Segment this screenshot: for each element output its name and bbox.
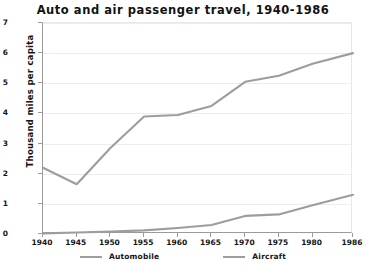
plot-area — [42, 22, 352, 233]
y-tick-label: 0 — [0, 229, 8, 238]
legend-swatch-icon — [80, 256, 102, 258]
y-tick-label: 2 — [0, 169, 8, 178]
legend-label: Automobile — [109, 252, 159, 261]
series-line-automobile — [43, 53, 353, 184]
x-tick-mark — [143, 233, 144, 237]
x-tick-mark — [76, 233, 77, 237]
x-tick-mark — [210, 233, 211, 237]
x-tick-label: 1986 — [332, 238, 366, 247]
x-tick-mark — [244, 233, 245, 237]
y-tick-label: 7 — [0, 18, 8, 27]
x-tick-mark — [312, 233, 313, 237]
chart-legend: AutomobileAircraft — [0, 252, 366, 261]
y-axis-title: Thousand miles per capita — [25, 16, 35, 186]
y-tick-label: 1 — [0, 199, 8, 208]
x-tick-mark — [109, 233, 110, 237]
line-chart: Auto and air passenger travel, 1940-1986… — [0, 0, 366, 270]
legend-label: Aircraft — [252, 252, 286, 261]
chart-title: Auto and air passenger travel, 1940-1986 — [0, 3, 366, 17]
x-tick-mark — [177, 233, 178, 237]
x-tick-mark — [278, 233, 279, 237]
y-tick-label: 4 — [0, 108, 8, 117]
x-tick-label: 1980 — [292, 238, 332, 247]
series-lines — [43, 23, 353, 234]
y-tick-label: 5 — [0, 78, 8, 87]
legend-item-automobile[interactable]: Automobile — [80, 252, 159, 261]
series-line-aircraft — [43, 195, 353, 234]
legend-item-aircraft[interactable]: Aircraft — [223, 252, 286, 261]
legend-swatch-icon — [223, 256, 245, 258]
y-tick-label: 3 — [0, 139, 8, 148]
x-tick-mark — [352, 233, 353, 237]
x-tick-mark — [42, 233, 43, 237]
y-tick-label: 6 — [0, 48, 8, 57]
